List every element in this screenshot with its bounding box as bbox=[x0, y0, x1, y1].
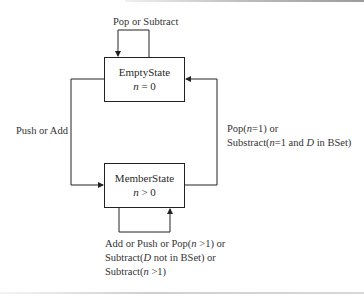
state-condition: n > 0 bbox=[105, 185, 184, 199]
bottom-divider bbox=[0, 292, 364, 294]
empty-to-member-arrow bbox=[71, 79, 104, 185]
member-to-empty-arrow bbox=[184, 79, 217, 185]
member-self-loop-label: Add or Push or Pop(n >1) or Subtract(D n… bbox=[105, 237, 225, 279]
member-to-empty-label: Pop(n=1) or Substract(n=1 and D in BSet) bbox=[227, 122, 351, 150]
state-name: EmptyState bbox=[105, 65, 184, 79]
state-name: MemberState bbox=[105, 171, 184, 185]
empty-to-member-label: Push or Add bbox=[16, 124, 68, 138]
empty-self-loop-arrow bbox=[118, 30, 149, 57]
empty-self-loop-label: Pop or Subtract bbox=[113, 15, 178, 29]
member-state-node: MemberState n > 0 bbox=[104, 163, 185, 208]
empty-state-node: EmptyState n = 0 bbox=[104, 57, 185, 102]
member-self-loop-arrow bbox=[119, 208, 170, 232]
state-condition: n = 0 bbox=[105, 79, 184, 93]
